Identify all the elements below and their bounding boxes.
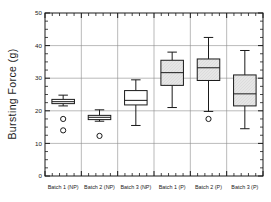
x-tick-label: Batch 3 (NP) bbox=[120, 184, 151, 190]
boxplot-figure: 01020304050 Bursting Force (g) Batch 1 (… bbox=[0, 0, 271, 202]
x-tick-label: Batch 1 (P) bbox=[159, 184, 186, 190]
y-tick-label: 0 bbox=[39, 172, 43, 179]
x-tick-label: Batch 2 (P) bbox=[195, 184, 222, 190]
x-tick-label: Batch 3 (P) bbox=[231, 184, 258, 190]
y-tick-label: 50 bbox=[35, 9, 42, 16]
y-tick-label: 40 bbox=[35, 42, 42, 49]
x-tick-label: Batch 1 (NP) bbox=[48, 184, 79, 190]
y-tick-label: 20 bbox=[35, 107, 42, 114]
chart-canvas: 01020304050 Bursting Force (g) Batch 1 (… bbox=[0, 0, 271, 202]
y-tick-label: 30 bbox=[35, 74, 42, 81]
box-body bbox=[234, 75, 257, 106]
box-body bbox=[125, 91, 148, 105]
x-tick-labels: Batch 1 (NP)Batch 2 (NP)Batch 3 (NP)Batc… bbox=[48, 184, 259, 190]
y-axis-title: Bursting Force (g) bbox=[6, 48, 18, 139]
box-body bbox=[197, 59, 220, 81]
x-tick-label: Batch 2 (NP) bbox=[84, 184, 115, 190]
y-tick-label: 10 bbox=[35, 140, 42, 147]
